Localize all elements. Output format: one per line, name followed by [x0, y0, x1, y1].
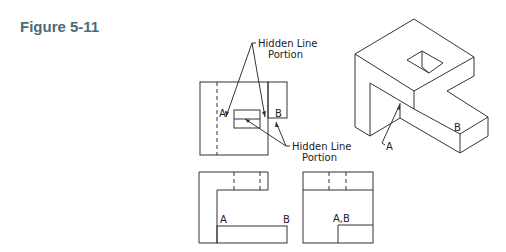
- callout-top-line1: Hidden Line: [258, 38, 318, 49]
- side-view: A,B: [303, 172, 373, 243]
- top-view-label-a: A: [219, 108, 226, 119]
- front-view: A B: [199, 172, 290, 243]
- side-view-label-ab: A,B: [333, 213, 350, 224]
- callout-bottom-line2: Portion: [302, 152, 337, 163]
- isometric-view: A B: [355, 19, 488, 153]
- iso-label-a: A: [386, 141, 393, 152]
- front-view-label-a: A: [220, 214, 227, 225]
- callout-top-line2: Portion: [268, 49, 303, 60]
- callout-bottom-line1: Hidden Line: [292, 141, 352, 152]
- callout-top-leaders: [225, 43, 266, 117]
- top-view-label-b: B: [275, 108, 282, 119]
- iso-label-b: B: [454, 122, 461, 133]
- orthographic-drawing: A B Hidden Line Portion Hidden Line Port…: [0, 0, 506, 252]
- front-view-label-b: B: [283, 214, 290, 225]
- top-view: A B: [200, 82, 287, 155]
